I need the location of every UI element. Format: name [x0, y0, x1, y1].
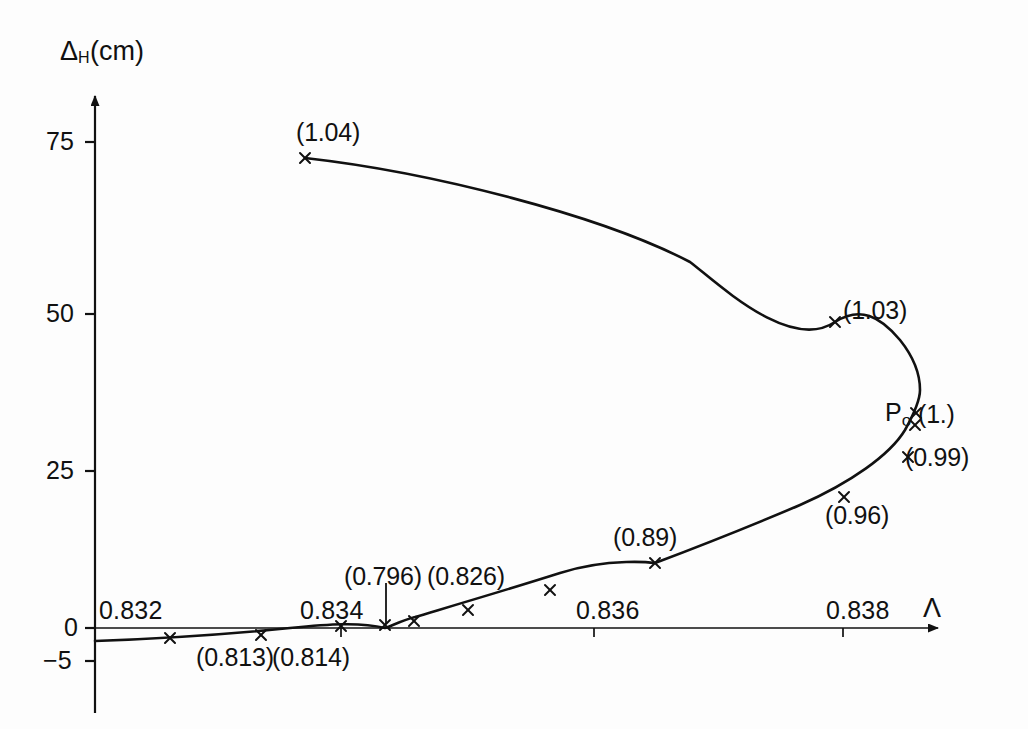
origin-point-annotation: Po	[885, 400, 911, 429]
y-tick-label-0: 0	[64, 615, 78, 640]
marker-0826	[463, 605, 473, 615]
y-axis-title-subscript: H	[78, 49, 90, 66]
x-tick-label-0832: 0.832	[99, 598, 163, 623]
y-axis-title: ΔH(cm)	[60, 38, 144, 66]
y-axis-title-delta: Δ	[60, 36, 78, 66]
x-axis-title: Λ	[923, 595, 941, 622]
point-label-0826: (0.826)	[427, 564, 505, 589]
marker-103	[830, 317, 840, 327]
marker-0826b	[545, 585, 555, 595]
point-label-1: (1.)	[918, 402, 955, 427]
y-tick-label-minus5: −5	[43, 648, 72, 673]
point-label-104: (1.04)	[296, 120, 360, 145]
point-label-099: (0.99)	[905, 445, 969, 470]
y-tick-label-75: 75	[46, 129, 74, 154]
point-label-096: (0.96)	[825, 503, 889, 528]
origin-point-letter: P	[885, 398, 902, 426]
figure-canvas: ΔH(cm) 75 50 25 0 −5 0.832 0.834 0.836 0…	[0, 0, 1028, 729]
point-label-089: (0.89)	[613, 525, 677, 550]
point-label-0813: (0.813)	[196, 645, 274, 670]
x-tick-label-0834: 0.834	[300, 598, 364, 623]
y-axis-title-unit: (cm)	[90, 36, 144, 66]
equilibrium-curve	[95, 158, 920, 641]
y-axis	[85, 96, 95, 713]
point-label-0796: (0.796)	[344, 564, 422, 589]
point-label-103: (1.03)	[843, 298, 907, 323]
data-markers	[165, 153, 921, 643]
x-axis	[95, 628, 938, 637]
point-label-0814: (0.814)	[272, 645, 350, 670]
y-tick-label-50: 50	[46, 301, 74, 326]
x-tick-label-0836: 0.836	[576, 598, 640, 623]
y-tick-label-25: 25	[46, 458, 74, 483]
x-tick-label-0838: 0.838	[826, 598, 890, 623]
origin-point-subscript: o	[902, 411, 911, 430]
